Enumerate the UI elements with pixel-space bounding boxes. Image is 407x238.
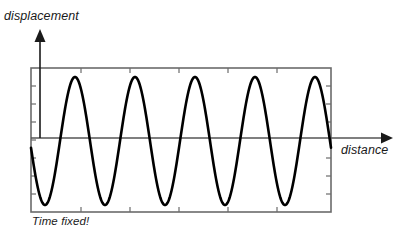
plot-canvas	[0, 0, 407, 238]
y-axis	[35, 29, 46, 138]
x-axis-arrowhead	[381, 133, 393, 144]
wave-diagram-figure: displacement distance Time fixed!	[0, 0, 407, 238]
y-axis-label: displacement	[4, 9, 79, 23]
x-axis-label: distance	[341, 143, 388, 157]
wave-curve	[31, 77, 331, 205]
y-axis-arrowhead	[35, 29, 46, 42]
time-fixed-annotation: Time fixed!	[32, 215, 89, 227]
x-axis	[31, 133, 393, 144]
